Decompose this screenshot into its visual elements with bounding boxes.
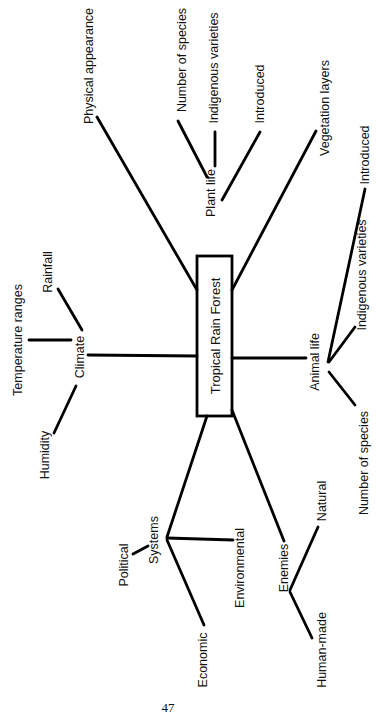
connector-climate-humidity [54, 386, 76, 433]
node-plant-number-of-species: Number of species [175, 8, 189, 112]
node-political: Political [117, 543, 131, 586]
connector-center-systems [167, 416, 207, 537]
connector-climate-rainfall [58, 289, 82, 330]
node-plant-indigenous-varieties: Indigenous varieties [207, 12, 221, 123]
node-plant-introduced: Introduced [253, 64, 267, 123]
connector-center-enemies [232, 410, 284, 541]
concept-map: Tropical Rain Forest Climate Temperature… [0, 0, 376, 718]
connector-systems-economic [167, 540, 204, 625]
node-animal-introduced: Introduced [358, 125, 372, 184]
node-animal-number-of-species: Number of species [357, 411, 371, 515]
node-animal-life: Animal life [308, 333, 322, 391]
center-node-label: Tropical Rain Forest [208, 277, 223, 394]
node-enemies: Enemies [277, 544, 291, 593]
node-human-made: Human-made [315, 612, 329, 688]
node-vegetation-layers: Vegetation layers [318, 60, 332, 156]
connector-center-vegetation-layers [232, 131, 316, 290]
node-physical-appearance: Physical appearance [82, 8, 96, 124]
node-rainfall: Rainfall [41, 251, 55, 293]
node-animal-indigenous-varieties: Indigenous varieties [355, 219, 369, 330]
connector-enemies-natural [290, 527, 318, 590]
connector-plant-introduced [222, 132, 260, 200]
connector-animal-number-of-species [329, 372, 355, 405]
node-climate: Climate [73, 336, 87, 378]
connector-center-climate [88, 355, 197, 356]
node-systems: Systems [147, 516, 161, 564]
node-environmental: Environmental [233, 528, 247, 608]
node-natural: Natural [315, 481, 329, 521]
connector-systems-environmental [167, 538, 233, 540]
connector-enemies-human-made [290, 592, 312, 638]
connector-systems-political [133, 546, 148, 554]
connector-plant-number-of-species [178, 121, 207, 177]
node-temperature-ranges: Temperature ranges [11, 284, 25, 396]
node-humidity: Humidity [38, 430, 52, 479]
page-number: 47 [162, 700, 176, 715]
node-economic: Economic [196, 633, 210, 688]
connector-center-physical-appearance [97, 117, 197, 290]
